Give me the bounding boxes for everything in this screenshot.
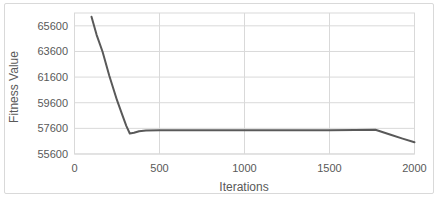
y-tick-label: 59600 xyxy=(37,97,68,109)
gridlines xyxy=(75,13,415,154)
y-tick-label: 57600 xyxy=(37,122,68,134)
x-axis-title: Iterations xyxy=(219,181,268,193)
y-tick-label: 55600 xyxy=(37,148,68,160)
x-tick-label: 1000 xyxy=(232,162,256,174)
y-tick-label: 63600 xyxy=(37,45,68,57)
x-tick-label: 0 xyxy=(71,162,77,174)
y-axis-title: Fitness Value xyxy=(8,51,20,123)
fitness-line xyxy=(92,17,415,142)
x-tick-label: 1500 xyxy=(317,162,341,174)
chart-canvas: 0500100015002000556005760059600616006360… xyxy=(0,0,439,205)
y-tick-label: 65600 xyxy=(37,20,68,32)
plot-area: 0500100015002000556005760059600616006360… xyxy=(0,0,439,205)
x-tick-label: 2000 xyxy=(402,162,426,174)
line-series xyxy=(92,17,415,142)
tick-labels: 0500100015002000556005760059600616006360… xyxy=(37,20,426,174)
y-tick-label: 61600 xyxy=(37,71,68,83)
x-tick-label: 500 xyxy=(150,162,168,174)
